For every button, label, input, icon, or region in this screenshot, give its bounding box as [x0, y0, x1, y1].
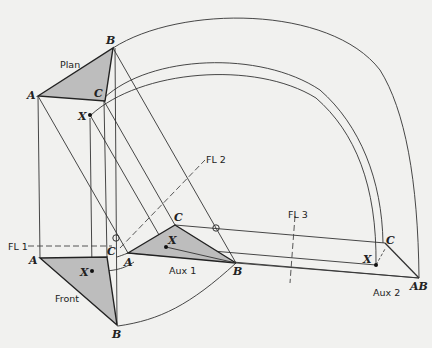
front-triangle — [40, 257, 117, 325]
front-label-A: A — [28, 254, 38, 267]
aux2-label-AB: AB — [409, 280, 428, 293]
fold-line-2-label: FL 2 — [206, 154, 226, 165]
fold-line-1-label: FL 1 — [8, 241, 28, 252]
arc-inner-C1 — [104, 63, 383, 243]
descriptive-geometry-diagram: B Plan A C X FL 1 A C X Front B FL 2 C X… — [0, 0, 432, 348]
projector-aux1-B-aux2 — [236, 263, 419, 278]
aux1-label-B: B — [232, 265, 242, 278]
projector-plan-X-aux1 — [90, 115, 166, 247]
projector-aux1-C-aux2 — [175, 225, 385, 243]
aux1-label-A: A — [123, 256, 133, 269]
plan-label-X: X — [77, 110, 87, 123]
aux2-X-point — [374, 263, 378, 267]
plan-view-label: Plan — [60, 59, 80, 70]
projector-C — [104, 101, 107, 257]
aux1-label-X: X — [167, 234, 177, 247]
plan-label-A: A — [26, 89, 36, 102]
front-label-C: C — [107, 245, 116, 258]
front-label-B: B — [111, 328, 121, 341]
aux2-label-C: C — [386, 234, 395, 247]
projector-X — [90, 118, 92, 271]
aux1-triangle — [128, 225, 236, 263]
front-view-label: Front — [55, 293, 79, 304]
front-label-X: X — [79, 266, 89, 279]
plan-label-C: C — [94, 87, 103, 100]
plan-label-B: B — [105, 34, 115, 47]
front-X-point — [90, 269, 94, 273]
fold-line-3-label: FL 3 — [288, 209, 308, 220]
aux1-view-label: Aux 1 — [169, 265, 196, 276]
projector-plan-C-aux1 — [104, 101, 175, 225]
aux2-view-label: Aux 2 — [373, 287, 400, 298]
aux2-edge-view — [385, 243, 419, 278]
projector-A — [38, 96, 40, 258]
fold-line-3 — [290, 216, 295, 283]
projector-B — [115, 48, 117, 325]
aux2-label-X: X — [362, 253, 372, 266]
aux1-label-C: C — [174, 211, 183, 224]
aux2-X-distance — [376, 249, 385, 265]
plan-X-point — [88, 113, 92, 117]
